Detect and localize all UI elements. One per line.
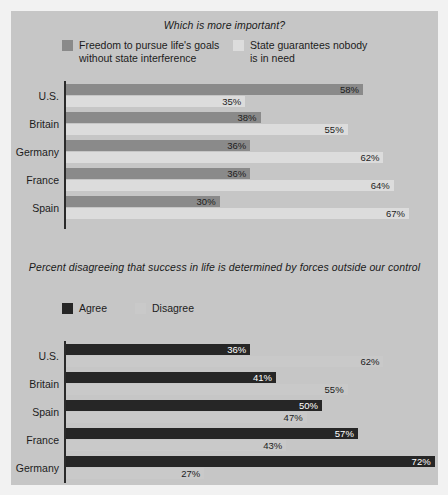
bar-value-label: 58% [340,84,359,95]
bar-wrap: 55% [66,384,348,395]
bar: 43% [66,440,286,451]
chart1-plot: U.S.58%35%Britain38%55%Germany36%62%Fran… [11,81,438,231]
chart1-legend-label-freedom: Freedom to pursue life's goals without s… [79,39,219,64]
bar-group: Britain41%55% [11,371,438,399]
bar: 38% [66,112,261,123]
bar: 41% [66,372,276,383]
bar-value-label: 57% [335,428,354,439]
bar-wrap: 43% [66,440,286,451]
bar-wrap: 36% [66,344,250,355]
bar-wrap: 57% [66,428,358,439]
bar-wrap: 64% [66,180,394,191]
bar-group: France57%43% [11,427,438,455]
bar: 64% [66,180,394,191]
bar: 72% [66,456,435,467]
bar: 57% [66,428,358,439]
bar-group: Spain50%47% [11,399,438,427]
bar: 35% [66,96,245,107]
bar-value-label: 41% [253,372,272,383]
bar-value-label: 30% [197,196,216,207]
bar-wrap: 38% [66,112,261,123]
bar-value-label: 67% [386,208,405,219]
bar-wrap: 35% [66,96,245,107]
bar: 36% [66,168,250,179]
chart2-legend-swatch-disagree [135,303,146,314]
chart2-title: Percent disagreeing that success in life… [11,261,438,274]
chart-percent-disagreeing: Percent disagreeing that success in life… [11,239,438,485]
bar-group: Germany72%27% [11,455,438,483]
bar-value-label: 43% [263,440,282,451]
bar-wrap: 67% [66,208,409,219]
chart1-legend-item-state: State guarantees nobody is in need [233,39,367,64]
bar: 27% [66,468,204,479]
category-label: Spain [11,202,59,214]
bar-group: France36%64% [11,167,438,195]
bar-group: U.S.58%35% [11,83,438,111]
bar-wrap: 55% [66,124,348,135]
category-label: France [11,174,59,186]
chart1-legend-swatch-freedom [62,40,73,51]
chart1-legend: Freedom to pursue life's goals without s… [11,39,438,69]
bar-group: Germany36%62% [11,139,438,167]
category-label: Germany [11,462,59,474]
bar: 47% [66,412,307,423]
chart-which-is-more-important: Which is more important? Freedom to purs… [11,11,438,239]
bar-value-label: 62% [360,356,379,367]
bar: 55% [66,384,348,395]
figure-root: Which is more important? Freedom to purs… [0,0,448,495]
chart2-legend-item-agree: Agree [62,302,107,315]
chart2-legend-label-disagree: Disagree [152,302,194,315]
bar-wrap: 27% [66,468,204,479]
bar-value-label: 50% [299,400,318,411]
category-label: Britain [11,378,59,390]
chart2-legend: Agree Disagree [11,302,438,332]
chart1-legend-label-state: State guarantees nobody is in need [250,39,367,64]
bar-wrap: 36% [66,168,250,179]
bar-value-label: 55% [325,124,344,135]
bar: 62% [66,152,383,163]
category-label: Spain [11,406,59,418]
bar-wrap: 62% [66,152,383,163]
bar-wrap: 50% [66,400,322,411]
chart2-legend-swatch-agree [62,303,73,314]
bar-value-label: 38% [238,112,257,123]
bar: 67% [66,208,409,219]
chart2-plot: U.S.36%62%Britain41%55%Spain50%47%France… [11,341,438,485]
bar: 58% [66,84,363,95]
bar-wrap: 41% [66,372,276,383]
bar-group: U.S.36%62% [11,343,438,371]
bar-value-label: 35% [222,96,241,107]
chart2-legend-item-disagree: Disagree [135,302,194,315]
bar-value-label: 27% [181,468,200,479]
bar-wrap: 72% [66,456,435,467]
bar: 36% [66,140,250,151]
category-label: France [11,434,59,446]
category-label: U.S. [11,90,59,102]
chart1-legend-swatch-state [233,40,244,51]
bar-wrap: 58% [66,84,363,95]
bar-value-label: 36% [227,140,246,151]
bar-wrap: 36% [66,140,250,151]
bar-value-label: 64% [371,180,390,191]
bar-group: Britain38%55% [11,111,438,139]
figure-panel: Which is more important? Freedom to purs… [11,11,438,485]
chart1-title: Which is more important? [11,19,438,32]
category-label: Germany [11,146,59,158]
category-label: Britain [11,118,59,130]
bar-value-label: 55% [325,384,344,395]
bar-group: Spain30%67% [11,195,438,223]
bar-wrap: 47% [66,412,307,423]
bar-value-label: 62% [360,152,379,163]
bar-value-label: 47% [284,412,303,423]
bar-value-label: 36% [227,344,246,355]
bar: 36% [66,344,250,355]
bar-wrap: 30% [66,196,220,207]
category-label: U.S. [11,350,59,362]
bar: 50% [66,400,322,411]
bar-value-label: 36% [227,168,246,179]
chart2-legend-label-agree: Agree [79,302,107,315]
bar-wrap: 62% [66,356,383,367]
bar: 30% [66,196,220,207]
chart1-legend-item-freedom: Freedom to pursue life's goals without s… [62,39,219,64]
bar-value-label: 72% [412,456,431,467]
